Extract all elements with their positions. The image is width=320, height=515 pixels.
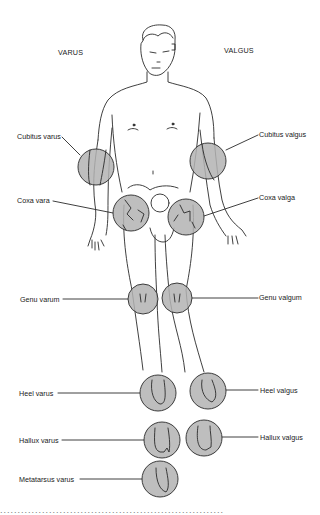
hallux-valgus-marker xyxy=(186,420,222,456)
varus-valgus-diagram: VARUS VALGUS Cubitus varus Cubitus valgu… xyxy=(0,0,320,515)
varus-header: VARUS xyxy=(58,48,83,57)
cubitus-valgus-marker xyxy=(190,143,226,179)
label-cubitus-valgus: Cubitus valgus xyxy=(259,131,306,138)
label-coxa-valga: Coxa valga xyxy=(259,194,295,201)
metatarsus-varus-marker xyxy=(142,461,178,497)
genu-valgum-marker xyxy=(162,283,192,313)
label-hallux-valgus: Hallux valgus xyxy=(260,434,303,441)
coxa-vara-marker xyxy=(113,195,149,231)
label-metatarsus-varus: Metatarsus varus xyxy=(19,476,74,483)
valgus-header: VALGUS xyxy=(224,46,254,55)
label-heel-varus: Heel varus xyxy=(19,390,53,397)
cubitus-varus-marker xyxy=(78,149,114,185)
label-cubitus-varus: Cubitus varus xyxy=(17,133,61,140)
label-heel-valgus: Heel valgus xyxy=(260,387,298,394)
figure-caption-cutoff: ........................................… xyxy=(0,511,320,515)
label-coxa-vara: Coxa vara xyxy=(17,197,50,204)
heel-varus-marker xyxy=(140,375,176,411)
label-genu-varum: Genu varum xyxy=(20,296,60,303)
hallux-varus-marker xyxy=(144,422,180,458)
coxa-valga-marker xyxy=(168,199,204,235)
genu-varum-marker xyxy=(128,284,158,314)
label-hallux-varus: Hallux varus xyxy=(19,437,59,444)
label-genu-valgum: Genu valgum xyxy=(259,294,302,301)
heel-valgus-marker xyxy=(190,373,226,409)
